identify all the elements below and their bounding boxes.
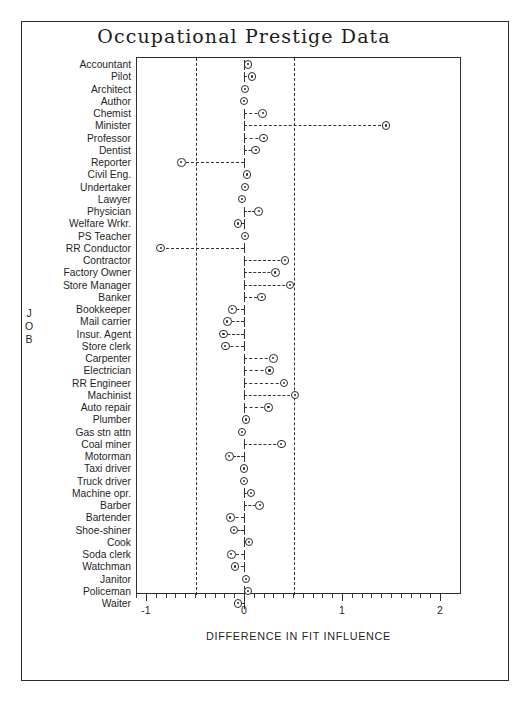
table-row [136,512,461,524]
y-axis-tick-label: RR Engineer [19,378,131,390]
table-row [136,353,461,365]
y-axis-tick-label: Waiter [19,598,131,610]
table-row [136,525,461,537]
data-point-marker [241,85,250,94]
baseline-tick [244,341,245,351]
x-axis-minor-tick [420,594,421,598]
y-axis-tick-label: Lawyer [19,194,131,206]
y-axis-tick-label: Reporter [19,157,131,169]
y-axis-tick-label: Cook [19,537,131,549]
table-row [136,108,461,120]
table-row [136,414,461,426]
y-axis-tick-label: Welfare Wrkr. [19,218,131,230]
y-axis-tick-label: Policeman [19,586,131,598]
page-title: Occupational Prestige Data [0,25,488,47]
data-point-marker [238,195,247,204]
table-row [136,120,461,132]
x-axis-minor-tick [430,594,431,598]
table-row [136,500,461,512]
y-axis-tick-label: RR Conductor [19,243,131,255]
y-axis-tick-label: Motorman [19,451,131,463]
data-point-marker [286,281,295,290]
table-row [136,402,461,414]
data-point-marker [258,109,267,118]
baseline-tick [244,268,245,278]
y-axis-tick-label: Barber [19,500,131,512]
x-axis-minor-tick [332,594,333,598]
baseline-tick [244,501,245,511]
data-point-marker [242,415,251,424]
table-row [136,549,461,561]
baseline-tick [244,513,245,523]
y-axis-tick-label: Professor [19,133,131,145]
table-row [136,574,461,586]
baseline-tick [244,133,245,143]
y-axis-tick-label: Auto repair [19,402,131,414]
y-axis-tick-label: Soda clerk [19,549,131,561]
baseline-tick [244,158,245,168]
table-row [136,439,461,451]
data-point-marker [281,256,290,265]
baseline-tick [244,488,245,498]
x-axis-minor-tick [224,594,225,598]
baseline-tick [244,292,245,302]
data-point-marker [240,464,249,473]
table-row [136,316,461,328]
data-point-marker [280,379,289,388]
whisker-line [244,285,290,286]
x-axis-minor-tick [313,594,314,598]
y-axis-tick-label: Insur. Agent [19,329,131,341]
x-axis-major-tick [440,594,441,601]
y-axis-tick-label: Civil Eng. [19,169,131,181]
table-row [136,292,461,304]
y-axis-tick-label: Carpenter [19,353,131,365]
baseline-tick [244,121,245,131]
data-point-marker [230,526,239,535]
table-row [136,280,461,292]
whisker-line [181,162,244,163]
table-row [136,304,461,316]
data-point-marker [264,403,273,412]
table-row [136,341,461,353]
y-axis-tick-label: Author [19,96,131,108]
x-axis-tick-label: 1 [322,604,362,616]
x-axis-minor-tick [264,594,265,598]
x-axis-major-tick [244,594,245,601]
y-axis-tick-label: Chemist [19,108,131,120]
table-row [136,476,461,488]
y-axis-tick-label: PS Teacher [19,231,131,243]
x-axis-minor-tick [185,594,186,598]
y-axis-tick-label: Coal miner [19,439,131,451]
x-axis-minor-tick [215,594,216,598]
data-point-marker [291,391,300,400]
baseline-tick [244,439,245,449]
x-axis-minor-tick [391,594,392,598]
baseline-tick [244,550,245,560]
x-axis-minor-tick [136,594,137,598]
table-row [136,488,461,500]
y-axis-tick-label: Architect [19,84,131,96]
data-point-marker [238,428,247,437]
data-point-marker [243,170,252,179]
data-point-marker [225,452,234,461]
y-axis-tick-label: Gas stn attn [19,427,131,439]
data-point-marker [259,134,268,143]
y-axis-tick-label: Shoe-shiner [19,525,131,537]
baseline-tick [244,72,245,82]
table-row [136,71,461,83]
baseline-tick [244,366,245,376]
data-point-marker [244,60,253,69]
table-row [136,463,461,475]
whisker-line [244,383,284,384]
table-row [136,561,461,573]
baseline-tick [244,354,245,364]
data-point-marker [242,575,251,584]
table-row [136,255,461,267]
data-point-marker [277,440,286,449]
y-axis-tick-label: Bookkeeper [19,304,131,316]
data-point-marker [156,244,165,253]
x-axis-minor-tick [381,594,382,598]
y-axis-tick-label: Plumber [19,414,131,426]
data-point-marker [265,366,274,375]
data-point-marker [231,562,240,571]
